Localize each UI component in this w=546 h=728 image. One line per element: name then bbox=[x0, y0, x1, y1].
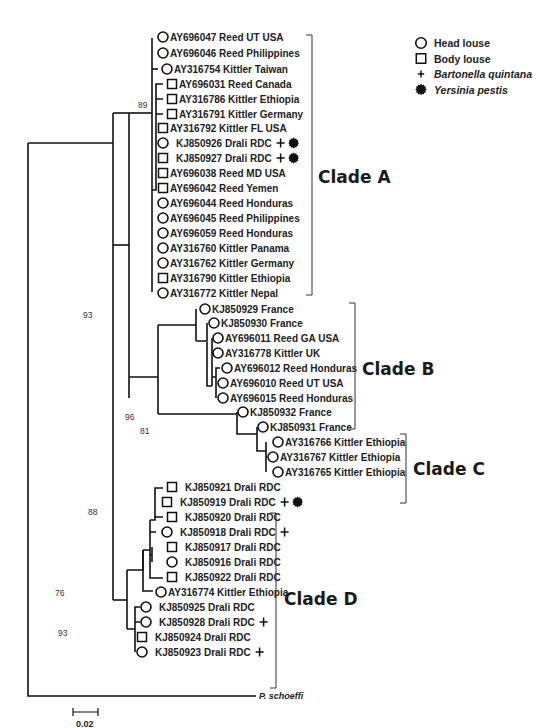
legend-label: Bartonella quintana bbox=[434, 68, 532, 80]
taxon-row: AY696059 Reed Honduras bbox=[158, 228, 293, 239]
head-louse-icon bbox=[162, 64, 172, 74]
bootstrap-value: 88 bbox=[88, 507, 98, 517]
legend-item: Head louse bbox=[416, 37, 490, 49]
taxon-label: AY316760 Kittler Panama bbox=[170, 243, 290, 254]
taxon-label: KJ850924 Drali RDC bbox=[155, 632, 251, 643]
body-louse-icon bbox=[168, 573, 177, 582]
taxon-row: KJ850930 France bbox=[209, 318, 303, 329]
taxon-label: AY696012 Reed Honduras bbox=[234, 363, 357, 374]
taxon-row: AY316765 Kittler Ethiopia bbox=[273, 467, 406, 478]
taxon-row: AY696010 Reed UT USA bbox=[218, 378, 344, 389]
bartonella-quintana-icon bbox=[418, 70, 424, 77]
taxon-label: AY696010 Reed UT USA bbox=[230, 378, 344, 389]
body-louse-icon bbox=[159, 184, 168, 193]
bootstrap-value: 76 bbox=[55, 588, 65, 598]
taxon-row: KJ850922 Drali RDC bbox=[168, 572, 281, 583]
taxon-label: KJ850918 Drali RDC bbox=[180, 527, 276, 538]
taxon-row: KJ850917 Drali RDC bbox=[168, 542, 281, 553]
yersinia-pestis-icon bbox=[288, 153, 299, 164]
taxon-row: AY316762 Kittler Germany bbox=[158, 258, 295, 269]
taxon-row: KJ850927 Drali RDC bbox=[159, 153, 300, 164]
head-louse-icon bbox=[158, 243, 168, 253]
bartonella-quintana-icon bbox=[277, 154, 285, 163]
subnode-d4 bbox=[150, 488, 163, 520]
bootstrap-value: 93 bbox=[83, 310, 93, 320]
taxon-label: AY696011 Reed GA USA bbox=[225, 333, 339, 344]
head-louse-icon bbox=[158, 32, 168, 42]
body-louse-icon bbox=[168, 513, 177, 522]
taxon-label: AY316762 Kittler Germany bbox=[170, 258, 295, 269]
body-louse-icon bbox=[159, 274, 168, 283]
taxon-label: AY696015 Reed Honduras bbox=[230, 393, 353, 404]
taxon-row: KJ850932 France bbox=[238, 407, 332, 418]
body-louse-icon bbox=[168, 483, 177, 492]
taxon-label: AY316765 Kittler Ethiopia bbox=[285, 467, 406, 478]
clade-label: Clade A bbox=[318, 167, 391, 187]
taxon-row: KJ850925 Drali RDC bbox=[141, 602, 255, 613]
taxon-label: KJ850932 France bbox=[250, 407, 332, 418]
taxon-label: KJ850928 Drali RDC bbox=[159, 617, 255, 628]
head-louse-icon bbox=[416, 38, 427, 49]
legend-label: Head louse bbox=[434, 37, 490, 49]
legend-label: Yersinia pestis bbox=[434, 84, 508, 96]
taxon-row: AY696038 Reed MD USA bbox=[159, 168, 286, 179]
head-louse-icon bbox=[158, 228, 168, 238]
taxon-label: KJ850925 Drali RDC bbox=[159, 602, 255, 613]
subnode-b3 bbox=[212, 338, 214, 386]
taxon-label: KJ850923 Drali RDC bbox=[155, 647, 251, 658]
taxon-row: KJ850926 Drali RDC bbox=[158, 138, 299, 149]
scale-bar: 0.02 bbox=[73, 708, 98, 728]
head-louse-icon bbox=[213, 333, 223, 343]
subnode-b1 bbox=[196, 323, 207, 341]
taxon-label: AY696047 Reed UT USA bbox=[170, 32, 284, 43]
phylogenetic-tree: Clade AClade BClade CClade D AY696047 Re… bbox=[0, 0, 546, 728]
taxon-label: AY316772 Kittler Nepal bbox=[170, 288, 278, 299]
head-louse-icon bbox=[158, 198, 168, 208]
legend-item: Yersinia pestis bbox=[415, 84, 508, 96]
taxon-row: KJ850916 Drali RDC bbox=[167, 557, 281, 568]
taxon-row: KJ850929 France bbox=[200, 304, 294, 315]
taxon-row: KJ850918 Drali RDC bbox=[162, 527, 289, 538]
bartonella-quintana-icon bbox=[281, 498, 289, 507]
taxon-label: AY316786 Kittler Ethiopia bbox=[179, 94, 300, 105]
taxon-row: AY696046 Reed Philippines bbox=[158, 48, 300, 59]
body-louse-icon bbox=[159, 124, 168, 133]
taxon-row: KJ850921 Drali RDC bbox=[168, 482, 281, 493]
bartonella-quintana-icon bbox=[260, 618, 268, 627]
clade-label: Clade B bbox=[362, 359, 434, 379]
taxon-label: AY696044 Reed Honduras bbox=[170, 198, 293, 209]
taxon-row: AY316767 Kittler Ethiopia bbox=[268, 452, 401, 463]
head-louse-icon bbox=[158, 258, 168, 268]
legend-item: Bartonella quintana bbox=[418, 68, 532, 80]
taxon-label: AY316791 Kittler Germany bbox=[179, 109, 304, 120]
taxon-row: AY316766 Kittler Ethiopia bbox=[273, 437, 406, 448]
yersinia-pestis-icon bbox=[415, 84, 427, 96]
yersinia-pestis-icon bbox=[292, 497, 303, 508]
taxon-row: KJ850931 France bbox=[258, 422, 352, 433]
taxa-list: AY696047 Reed UT USAAY696046 Reed Philip… bbox=[137, 32, 406, 658]
head-louse-icon bbox=[158, 48, 168, 58]
bootstrap-value: 93 bbox=[58, 628, 68, 638]
taxon-row: AY316778 Kittler UK bbox=[213, 348, 321, 359]
clade-label: Clade C bbox=[413, 459, 485, 479]
head-louse-icon bbox=[273, 437, 283, 447]
subnode-d6 bbox=[127, 607, 140, 652]
clade-label: Clade D bbox=[284, 589, 358, 609]
body-louse-icon bbox=[168, 95, 177, 104]
taxon-label: KJ850917 Drali RDC bbox=[185, 542, 281, 553]
head-louse-icon bbox=[258, 422, 268, 432]
taxon-label: KJ850926 Drali RDC bbox=[176, 138, 272, 149]
root-branch bbox=[28, 143, 256, 696]
taxon-label: AY696046 Reed Philippines bbox=[170, 48, 300, 59]
bootstrap-value: 89 bbox=[138, 100, 148, 110]
legend-label: Body louse bbox=[434, 53, 491, 65]
bartonella-quintana-icon bbox=[277, 139, 285, 148]
taxon-row: AY696047 Reed UT USA bbox=[158, 32, 284, 43]
head-louse-icon bbox=[137, 647, 147, 657]
body-louse-icon bbox=[163, 498, 172, 507]
bartonella-quintana-icon bbox=[281, 528, 289, 537]
taxon-label: AY696031 Reed Canada bbox=[179, 79, 292, 90]
head-louse-icon bbox=[218, 393, 228, 403]
taxon-row: AY696044 Reed Honduras bbox=[158, 198, 293, 209]
body-louse-icon bbox=[138, 633, 147, 642]
